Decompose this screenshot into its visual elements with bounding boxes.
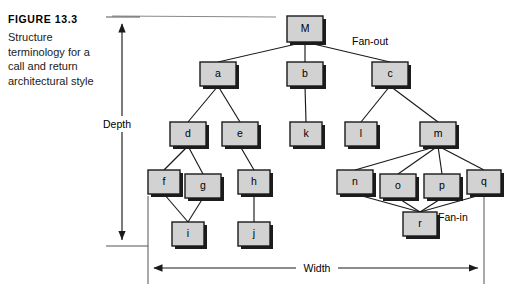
node-f[interactable]: f (148, 170, 183, 197)
node-label: p (439, 179, 445, 191)
figure-page: FIGURE 13.3 Structure terminology for a … (0, 0, 529, 294)
node-b[interactable]: b (287, 62, 326, 89)
node-label: q (481, 175, 487, 187)
node-g[interactable]: g (185, 174, 224, 201)
node-n[interactable]: n (337, 170, 376, 197)
node-label: k (303, 127, 309, 139)
edge-b-k (305, 86, 306, 122)
node-label: o (395, 179, 401, 191)
node-h[interactable]: h (238, 170, 273, 197)
node-label: d (185, 127, 191, 139)
fan-out-label: Fan-out (352, 35, 388, 47)
edge-e-h (240, 146, 254, 170)
node-m[interactable]: m (420, 122, 459, 149)
node-label: i (187, 227, 189, 239)
node-e[interactable]: e (222, 122, 261, 149)
edge-a-d (188, 86, 218, 122)
node-a[interactable]: a (200, 62, 239, 89)
edge-c-m (390, 86, 438, 122)
node-i[interactable]: i (172, 222, 207, 249)
edge-m-n (355, 146, 438, 170)
edge-m-o (398, 146, 438, 174)
node-M[interactable]: M (287, 16, 326, 45)
depth-label: Depth (103, 118, 131, 130)
edge-g-i (188, 198, 203, 222)
node-o[interactable]: o (380, 174, 419, 201)
edge-a-e (218, 86, 240, 122)
edge-m-p (438, 146, 442, 174)
node-label: c (387, 67, 392, 79)
node-k[interactable]: k (290, 122, 325, 149)
node-q[interactable]: q (467, 170, 504, 197)
node-label: j (252, 227, 255, 239)
fan-in-label: Fan-in (438, 211, 468, 223)
node-label: l (360, 127, 362, 139)
node-l[interactable]: l (345, 122, 380, 149)
width-label: Width (304, 262, 331, 274)
node-label: b (302, 67, 308, 79)
node-r[interactable]: r (403, 212, 440, 239)
edge-d-f (164, 146, 188, 170)
node-p[interactable]: p (424, 174, 463, 201)
node-label: r (418, 217, 422, 229)
node-label: f (163, 175, 166, 187)
node-label: m (434, 127, 443, 139)
node-label: n (352, 175, 358, 187)
node-label: a (215, 67, 221, 79)
edge-c-l (361, 86, 390, 122)
node-label: g (200, 179, 206, 191)
node-label: e (237, 127, 243, 139)
node-label: h (251, 175, 257, 187)
node-j[interactable]: j (238, 222, 273, 249)
edge-m-q (438, 146, 484, 170)
node-c[interactable]: c (372, 62, 411, 89)
node-label: M (301, 22, 310, 34)
edge-d-g (188, 146, 203, 174)
node-d[interactable]: d (170, 122, 209, 149)
tree-diagram: Depth Width Fan-out Fan-in Mabcdeklmfghn… (0, 0, 529, 294)
